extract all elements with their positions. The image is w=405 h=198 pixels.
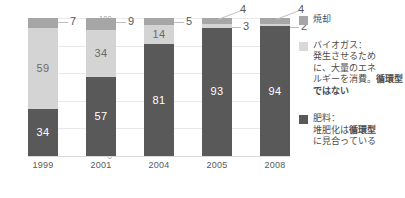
legend-swatch-fertilizer-icon	[299, 115, 308, 124]
x-tick-2004: 2004	[144, 160, 174, 170]
bar-2005[interactable]: 4 3 93	[202, 18, 232, 156]
leader-line-biogas-2005	[232, 27, 241, 28]
x-tick-2001: 2001	[86, 160, 116, 170]
segment-label: 81	[153, 95, 166, 106]
segment-label: 34	[37, 127, 50, 138]
segment-incineration-1999: 7	[28, 18, 58, 28]
gridline-0	[28, 156, 290, 157]
segment-fertilizer-2001: 57	[86, 77, 116, 156]
segment-label: 59	[37, 63, 50, 74]
bar-2001[interactable]: 9 34 57	[86, 18, 116, 156]
segment-incineration-2001: 9	[86, 18, 116, 30]
legend-item-fertilizer[interactable]: 肥料： 堆肥化は循環型 に見合っている	[299, 113, 403, 148]
bar-2008[interactable]: 4 2 94	[260, 18, 290, 156]
callout-incineration-1999: 7	[70, 16, 76, 27]
legend-label-fertilizer-emphasis: 循環型	[349, 125, 376, 135]
segment-biogas-2004: 14	[144, 25, 174, 44]
segment-incineration-2004: 5	[144, 18, 174, 25]
segment-label: 93	[211, 86, 224, 97]
x-tick-2005: 2005	[202, 160, 232, 170]
segment-fertilizer-2004: 81	[144, 44, 174, 156]
chart-legend: 焼却 バイオガス： 発生させるため に、大量のエネ ルギーを消費。循環型ではない…	[299, 14, 403, 158]
segment-label: 94	[269, 86, 282, 97]
bar-slot-2008: 4 2 94 4 2	[260, 18, 290, 156]
callout-incineration-2005: 4	[240, 4, 246, 15]
segment-fertilizer-2005: 93	[202, 28, 232, 156]
leader-line-incineration-1999	[58, 22, 68, 23]
stacked-bar-chart: 100 80 60 40 20 0 7 59	[0, 0, 405, 198]
legend-swatch-incineration-icon	[299, 16, 308, 25]
bar-2004[interactable]: 5 14 81	[144, 18, 174, 156]
legend-label-fertilizer-tail: に見合っている	[313, 136, 376, 146]
callout-biogas-2005: 3	[243, 21, 249, 32]
callout-incineration-2001: 9	[128, 16, 134, 27]
segment-label: 57	[95, 111, 108, 122]
x-tick-2008: 2008	[260, 160, 290, 170]
leader-line-incineration-2001	[116, 22, 126, 23]
x-axis: 1999 2001 2004 2005 2008	[28, 160, 290, 170]
legend-label-fertilizer-main: 肥料： 堆肥化は	[313, 113, 349, 135]
callout-incineration-2004: 5	[186, 16, 192, 27]
bar-slot-2005: 4 3 93 4 3	[202, 18, 232, 156]
bar-slot-2001: 9 34 57 9	[86, 18, 116, 156]
segment-biogas-1999: 59	[28, 28, 58, 109]
bar-1999[interactable]: 7 59 34	[28, 18, 58, 156]
x-tick-1999: 1999	[28, 160, 58, 170]
segment-fertilizer-1999: 34	[28, 109, 58, 156]
legend-label-incineration: 焼却	[313, 14, 331, 26]
leader-line-incineration-2004	[174, 22, 184, 23]
legend-label-biogas: バイオガス： 発生させるため に、大量のエネ ルギーを消費。循環型ではない	[313, 40, 403, 98]
plot-area: 7 59 34 7 9	[28, 18, 290, 156]
segment-label: 14	[153, 29, 166, 40]
segment-fertilizer-2008: 94	[260, 26, 290, 156]
legend-item-biogas[interactable]: バイオガス： 発生させるため に、大量のエネ ルギーを消費。循環型ではない	[299, 40, 403, 98]
bar-slot-1999: 7 59 34 7	[28, 18, 58, 156]
segment-label: 34	[95, 48, 108, 59]
segment-biogas-2001: 34	[86, 30, 116, 77]
legend-swatch-biogas-icon	[299, 42, 308, 51]
bar-slot-2004: 5 14 81 5	[144, 18, 174, 156]
bar-group: 7 59 34 7 9	[28, 18, 290, 156]
legend-item-incineration[interactable]: 焼却	[299, 14, 403, 26]
leader-line-biogas-2008	[290, 27, 299, 28]
legend-label-fertilizer: 肥料： 堆肥化は循環型 に見合っている	[313, 113, 376, 148]
legend-label-biogas-main: バイオガス： 発生させるため に、大量のエネ ルギーを消費。	[313, 40, 376, 85]
